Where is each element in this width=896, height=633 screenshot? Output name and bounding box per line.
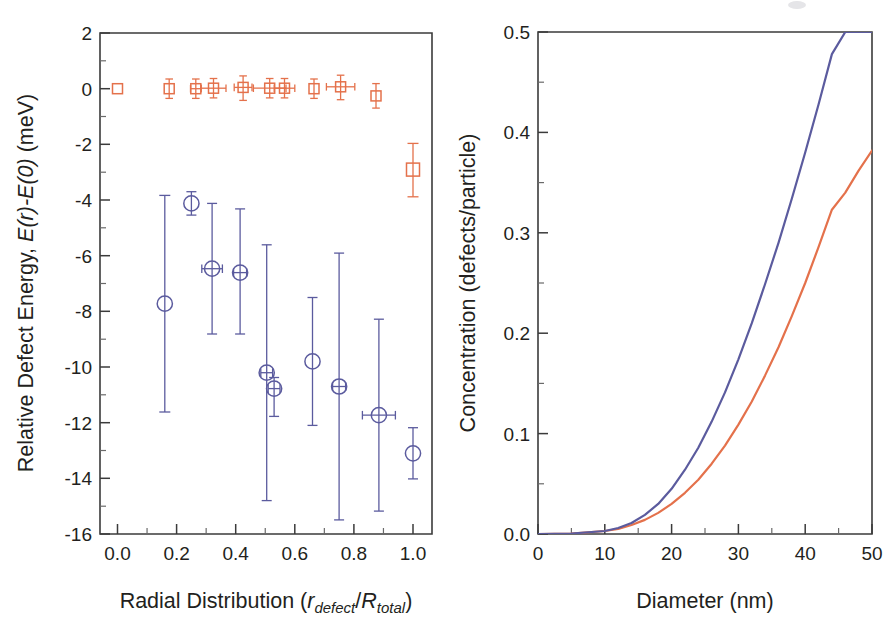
data-point-blue xyxy=(267,378,282,417)
right-x-ticklabels: 0 10 20 30 40 50 xyxy=(533,543,883,564)
right-y-ticklabel: 0.3 xyxy=(504,223,530,244)
left-chart-svg: 2 0 -2 -4 -6 -8 -10 -12 -14 -16 xyxy=(0,0,450,633)
left-x-ticklabel: 0.4 xyxy=(222,543,249,564)
right-x-ticklabel: 50 xyxy=(861,543,882,564)
data-point-orange xyxy=(164,79,174,98)
left-y-ticklabel: -6 xyxy=(75,246,92,267)
right-x-ticklabel: 10 xyxy=(594,543,615,564)
left-x-ticklabel: 1.0 xyxy=(400,543,426,564)
data-point-blue xyxy=(157,195,172,412)
data-point-blue xyxy=(362,319,395,511)
left-y-ticklabel: -4 xyxy=(75,190,92,211)
left-series-blue-circles xyxy=(157,192,420,520)
figure-root: 2 0 -2 -4 -6 -8 -10 -12 -14 -16 xyxy=(0,0,896,633)
right-y-ticklabel: 0.2 xyxy=(504,323,530,344)
data-point-blue xyxy=(259,245,274,501)
left-y-ticklabel: -10 xyxy=(65,357,92,378)
data-point-orange xyxy=(309,79,319,98)
data-point-orange xyxy=(371,84,381,109)
left-y-ticklabel: -16 xyxy=(65,524,92,545)
right-x-axis-title: Diameter (nm) xyxy=(636,589,773,613)
right-chart-panel: 0.5 0.4 0.3 0.2 0.1 0.0 xyxy=(446,0,896,633)
right-y-ticklabel: 0.4 xyxy=(504,122,531,143)
left-y-ticklabel: 2 xyxy=(81,23,92,44)
scan-artifact xyxy=(788,1,806,9)
data-point-blue xyxy=(233,209,248,334)
left-x-ticks xyxy=(118,524,414,534)
left-y-axis-title: Relative Defect Energy, E(r)-E(0) (meV) xyxy=(14,94,38,472)
right-x-ticklabel: 0 xyxy=(533,543,544,564)
left-y-ticklabel: -2 xyxy=(75,134,92,155)
right-x-ticklabel: 40 xyxy=(795,543,816,564)
left-x-ticklabel: 0.6 xyxy=(282,543,308,564)
left-chart-panel: 2 0 -2 -4 -6 -8 -10 -12 -14 -16 xyxy=(0,0,450,633)
data-point-blue xyxy=(405,428,420,479)
data-point-orange xyxy=(201,79,226,98)
left-y-ticklabel: -12 xyxy=(65,413,92,434)
right-chart-svg: 0.5 0.4 0.3 0.2 0.1 0.0 xyxy=(446,0,896,633)
data-point-blue xyxy=(332,253,347,520)
left-y-ticks xyxy=(100,33,110,534)
right-x-ticklabel: 30 xyxy=(728,543,749,564)
left-y-ticklabel: -8 xyxy=(75,301,92,322)
left-axis-frame xyxy=(100,33,432,534)
right-y-ticklabel: 0.1 xyxy=(504,424,530,445)
right-curve-blue-exact xyxy=(538,32,872,534)
right-curve-orange-exact xyxy=(538,151,872,535)
right-y-ticks xyxy=(538,32,548,534)
data-point-orange xyxy=(274,79,295,98)
left-series-orange-squares xyxy=(113,75,420,197)
data-point-orange xyxy=(326,75,354,100)
left-y-ticklabel: -14 xyxy=(65,468,93,489)
data-point-orange xyxy=(407,143,420,196)
data-point-blue xyxy=(202,203,223,334)
data-point-orange xyxy=(191,79,202,98)
right-y-ticklabel: 0.5 xyxy=(504,22,530,43)
left-x-ticklabel: 0.0 xyxy=(104,543,130,564)
data-point-orange xyxy=(234,76,252,101)
left-x-ticklabels: 0.0 0.2 0.4 0.6 0.8 1.0 xyxy=(104,543,426,564)
right-y-axis-title: Concentration (defects/particle) xyxy=(456,134,480,433)
curve-orange-path xyxy=(538,151,872,535)
data-point-blue xyxy=(305,298,320,426)
right-y-ticklabels: 0.5 0.4 0.3 0.2 0.1 0.0 xyxy=(504,22,531,545)
left-x-ticklabel: 0.2 xyxy=(163,543,189,564)
left-x-axis-title: Radial Distribution (rdefect/Rtotal) xyxy=(120,589,413,616)
left-x-ticklabel: 0.8 xyxy=(341,543,367,564)
right-y-ticklabel: 0.0 xyxy=(504,524,530,545)
data-point-blue xyxy=(184,192,199,215)
data-point-orange xyxy=(113,84,123,94)
left-y-ticklabel: 0 xyxy=(81,79,92,100)
right-axis-frame xyxy=(538,32,872,534)
left-y-ticklabels: 2 0 -2 -4 -6 -8 -10 -12 -14 -16 xyxy=(65,23,93,545)
curve-blue-path xyxy=(538,32,872,534)
right-x-ticklabel: 20 xyxy=(661,543,682,564)
